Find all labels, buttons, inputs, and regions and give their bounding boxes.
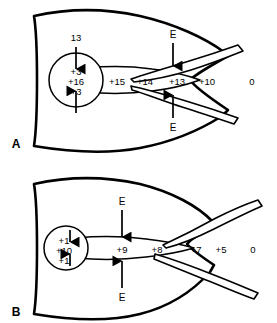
panel-label-b: B [12,305,21,319]
chamber-lower-value-b: +1 [59,255,70,266]
outlet-value-b: 0 [250,244,255,255]
channel-distal-value-b: +8 [152,244,163,255]
e-marker-label-bottom-a: E [170,122,177,133]
wedge-proximal-value-b: +7 [191,244,202,255]
wedge-proximal-value-a: +13 [169,76,185,87]
chamber-lower-value-a: +3 [71,86,82,97]
wedge-distal-value-a: +10 [199,76,215,87]
outlet-value-a: 0 [249,76,254,87]
panel-label-a: A [12,137,21,151]
channel-distal-value-a: +14 [137,76,153,87]
panel-b: +1 +10 +1 +9 +8 +7 +5 0 E E B [12,178,262,319]
e-marker-label-top-b: E [119,196,126,207]
e-marker-label-bottom-b: E [119,292,126,303]
channel-proximal-value-b: +9 [117,244,128,255]
figure-container: 13 +3 +16 +3 +15 +14 +13 +10 0 E E A +1 [0,0,277,323]
chamber-top-value-a: 13 [71,32,82,43]
wedge-distal-value-b: +5 [216,244,227,255]
e-marker-label-top-a: E [170,29,177,40]
channel-proximal-value-a: +15 [109,76,125,87]
panel-a: 13 +3 +16 +3 +15 +14 +13 +10 0 E E A [12,10,255,151]
diagram-svg: 13 +3 +16 +3 +15 +14 +13 +10 0 E E A +1 [0,0,277,323]
